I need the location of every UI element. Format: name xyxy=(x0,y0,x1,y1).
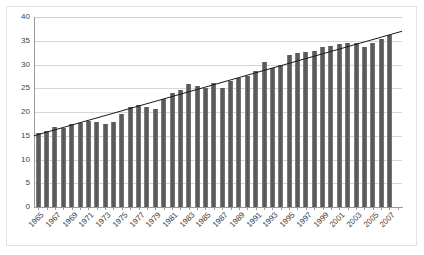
chart-container: 0510152025303540 19651967196919711973197… xyxy=(0,0,424,255)
x-axis-tick-labels: 1965196719691971197319751977197919811983… xyxy=(0,0,424,255)
